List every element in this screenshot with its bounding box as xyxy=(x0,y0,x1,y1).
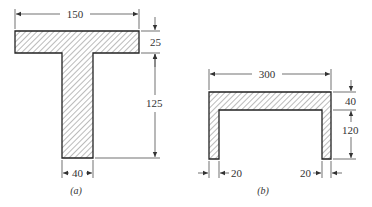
label-flange-width: 150 xyxy=(67,8,84,20)
figure-a-t-section: 150 25 125 40 (a) xyxy=(15,8,163,197)
channel-section-shape xyxy=(209,92,331,159)
cross-sections-diagram: 150 25 125 40 (a) xyxy=(0,0,372,207)
label-web-height: 125 xyxy=(146,97,163,109)
label-leg-height: 120 xyxy=(342,124,359,136)
figure-b-channel-section: 300 40 120 20 20 xyxy=(198,68,359,197)
dim-right-leg-width xyxy=(313,161,342,178)
label-overall-width: 300 xyxy=(259,68,276,80)
label-flange-thickness: 25 xyxy=(150,36,162,48)
caption-a: (a) xyxy=(70,185,82,197)
t-section-shape xyxy=(15,31,139,158)
caption-b: (b) xyxy=(257,185,269,197)
label-left-leg-width: 20 xyxy=(231,167,243,179)
dim-left-leg-width xyxy=(198,161,229,178)
label-web-width: 40 xyxy=(72,167,84,179)
label-flange-thickness-b: 40 xyxy=(345,95,357,107)
label-right-leg-width: 20 xyxy=(300,167,312,179)
